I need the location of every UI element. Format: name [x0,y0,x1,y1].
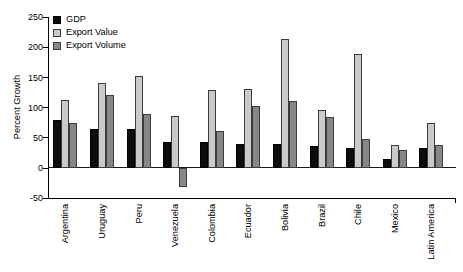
bar-export-value-latin-america [427,123,435,168]
y-axis-tick [43,198,48,199]
bar-gdp-uruguay [90,129,98,168]
bar-gdp-colombia [200,142,208,168]
bar-gdp-chile [346,148,354,168]
bar-export-value-colombia [208,90,216,168]
y-axis-tick-label: 150 [0,73,43,83]
x-axis-label-brazil: Brazil [317,204,327,227]
y-axis-tick-label: 200 [0,42,43,52]
legend-item-gdp: GDP [53,15,126,24]
x-axis-label-colombia: Colombia [207,204,217,243]
bar-export-value-venezuela [171,116,179,168]
y-axis-tick-label: 50 [0,133,43,143]
bar-chart: Percent Growth GDPExport ValueExport Vol… [0,0,463,272]
legend-item-export-volume: Export Volume [53,41,126,50]
legend-label-export-volume: Export Volume [66,41,126,50]
bar-gdp-brazil [310,146,318,168]
bar-export-volume-uruguay [106,95,114,168]
x-axis-label-latin-america: Latin America [426,204,436,260]
legend-swatch-gdp [53,16,61,24]
bar-export-volume-colombia [216,131,224,168]
x-axis-label-chile: Chile [353,204,363,225]
bar-export-value-argentina [61,100,69,168]
bar-gdp-ecuador [236,144,244,168]
legend-item-export-value: Export Value [53,28,126,37]
bar-export-volume-mexico [399,150,407,168]
bar-export-value-ecuador [244,89,252,168]
y-axis-tick-label: 0 [0,163,43,173]
legend-swatch-export-volume [53,42,61,50]
x-axis-label-peru: Peru [134,204,144,223]
y-axis-tick [43,77,48,78]
bar-export-volume-peru [143,114,151,168]
legend: GDPExport ValueExport Volume [53,15,126,54]
legend-swatch-export-value [53,29,61,37]
bar-gdp-peru [127,129,135,168]
bar-export-volume-venezuela [179,168,187,187]
bar-gdp-latin-america [419,148,427,168]
y-axis-line [48,17,49,199]
x-axis-label-uruguay: Uruguay [97,204,107,239]
x-axis-label-bolivia: Bolivia [280,204,290,231]
x-axis-label-mexico: Mexico [390,204,400,233]
y-axis-tick [43,137,48,138]
bar-gdp-bolivia [273,144,281,168]
bar-export-value-chile [354,54,362,168]
y-axis-tick-label: -50 [0,193,43,203]
y-axis-tick [43,17,48,18]
y-axis-tick [43,107,48,108]
bar-export-volume-argentina [69,123,77,168]
y-axis-tick-label: 100 [0,103,43,113]
bar-export-value-bolivia [281,39,289,168]
bar-export-volume-chile [362,139,370,168]
x-axis-line [48,198,456,199]
bar-gdp-argentina [53,120,61,168]
legend-label-export-value: Export Value [66,28,118,37]
bar-export-volume-latin-america [435,145,443,168]
bar-gdp-mexico [383,159,391,168]
bar-export-value-peru [135,76,143,168]
x-axis-end-tick [455,198,456,203]
bar-export-volume-bolivia [289,101,297,168]
y-axis-tick [43,168,48,169]
x-axis-label-argentina: Argentina [60,204,70,243]
x-axis-label-venezuela: Venezuela [170,204,180,247]
bar-export-value-uruguay [98,83,106,168]
bar-export-volume-ecuador [252,106,260,168]
bar-export-volume-brazil [326,117,334,168]
bar-export-value-mexico [391,145,399,168]
y-axis-tick [43,47,48,48]
legend-label-gdp: GDP [66,15,86,24]
y-axis-tick-label: 250 [0,12,43,22]
bar-gdp-venezuela [163,142,171,168]
bar-export-value-brazil [318,110,326,168]
x-axis-label-ecuador: Ecuador [243,204,253,238]
